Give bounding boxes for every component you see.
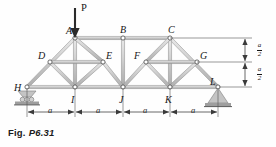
truss-member-AE xyxy=(74,37,104,63)
joint-label-H: H xyxy=(14,83,21,93)
truss-member-EJ xyxy=(102,61,124,88)
joint-label-C: C xyxy=(168,25,175,35)
joint-label-L: L xyxy=(210,77,216,87)
truss-member-DE xyxy=(50,60,103,63)
truss-members xyxy=(26,36,219,88)
truss-member-DI xyxy=(49,61,76,88)
dim-label-a-over-2-upper: a 2 xyxy=(255,42,264,58)
fraction-denominator: 2 xyxy=(258,50,262,58)
truss-member-FC xyxy=(145,37,171,63)
load-label-p: P xyxy=(81,3,87,14)
truss-member-FG xyxy=(146,60,197,63)
truss-member-HI xyxy=(27,85,75,88)
truss-member-FK xyxy=(145,61,171,88)
truss-member-IJ xyxy=(75,85,123,88)
figure-caption: Fig.P6.31 xyxy=(8,127,55,138)
caption-prefix: Fig. xyxy=(8,127,26,138)
truss-member-BC xyxy=(123,36,170,39)
truss-member-AB xyxy=(75,36,123,39)
truss-member-BJ xyxy=(121,38,124,87)
joint-label-F: F xyxy=(134,51,140,61)
dim-label-a-over-2-lower: a 2 xyxy=(255,66,264,82)
truss-member-KG xyxy=(169,61,198,88)
figure-p6-31: P ABCDEFGHIJKL a a a a a 2 a 2 Fig.P6.31 xyxy=(0,0,276,147)
joint-B xyxy=(121,36,125,40)
joint-F xyxy=(144,60,148,64)
fraction-numerator: a xyxy=(258,41,262,49)
truss-diagram xyxy=(0,0,276,147)
joint-label-K: K xyxy=(165,95,172,105)
truss-member-JK xyxy=(123,85,170,88)
truss-member-JF xyxy=(122,61,147,88)
dim-label-a-1: a xyxy=(48,105,52,115)
joint-D xyxy=(48,60,52,64)
joint-E xyxy=(101,60,105,64)
dim-label-a-4: a xyxy=(191,105,195,115)
joint-label-G: G xyxy=(200,51,207,61)
fraction-numerator: a xyxy=(258,65,262,73)
joint-label-A: A xyxy=(66,26,72,36)
dim-label-a-3: a xyxy=(143,105,147,115)
joint-label-D: D xyxy=(38,51,45,61)
joint-label-I: I xyxy=(71,95,74,105)
joint-label-B: B xyxy=(120,25,126,35)
joint-label-J: J xyxy=(119,95,123,105)
caption-id: P6.31 xyxy=(29,127,55,138)
truss-member-EI xyxy=(74,61,104,88)
joint-label-E: E xyxy=(106,51,112,61)
fraction-denominator: 2 xyxy=(258,74,262,82)
dim-label-a-2: a xyxy=(96,105,100,115)
